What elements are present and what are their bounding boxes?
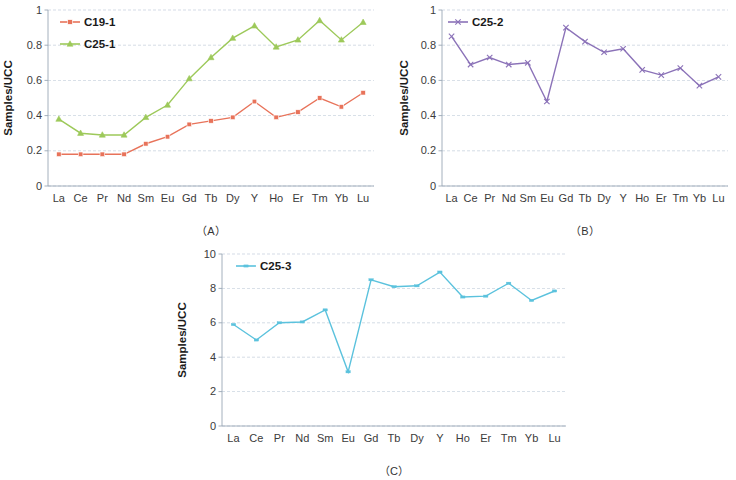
y-axis-tick-label: 6 bbox=[210, 316, 216, 328]
data-point-marker bbox=[438, 271, 442, 273]
panel-caption: （B） bbox=[570, 225, 599, 237]
x-axis-category-label: Pr bbox=[97, 192, 108, 204]
x-axis-category-label: Tm bbox=[312, 192, 328, 204]
data-point-marker bbox=[346, 371, 350, 373]
data-point-marker bbox=[144, 141, 149, 146]
x-axis-category-label: La bbox=[227, 432, 240, 444]
data-point-marker bbox=[56, 116, 62, 121]
y-axis-tick-label: 0.6 bbox=[421, 74, 436, 86]
y-axis-tick-label: 0 bbox=[430, 180, 436, 192]
series-line-C25-2 bbox=[452, 28, 719, 102]
legend-label-C25-2: C25-2 bbox=[472, 16, 503, 28]
rare-earth-element-figure: 00.20.40.60.81LaCePrNdSmEuGdTbDyYHoErTmY… bbox=[0, 0, 736, 480]
x-axis-category-label: Gd bbox=[559, 192, 574, 204]
x-axis-category-label: Y bbox=[251, 192, 259, 204]
y-axis-tick-label: 1 bbox=[430, 4, 436, 16]
data-point-marker bbox=[323, 309, 327, 311]
x-axis-category-label: Pr bbox=[274, 432, 285, 444]
data-point-marker bbox=[339, 105, 344, 110]
panel-c-plot-area: 0246810LaCePrNdSmEuGdTbDyYHoErTmYbLuSamp… bbox=[168, 240, 580, 480]
x-axis-category-label: Tm bbox=[501, 432, 517, 444]
data-point-marker bbox=[277, 322, 281, 324]
x-axis-category-label: Sm bbox=[138, 192, 155, 204]
x-axis-category-label: Tb bbox=[388, 432, 401, 444]
y-axis-tick-label: 0.8 bbox=[27, 39, 42, 51]
y-axis-tick-label: 0.4 bbox=[27, 109, 42, 121]
panel-c-svg: 0246810LaCePrNdSmEuGdTbDyYHoErTmYbLuSamp… bbox=[168, 240, 580, 480]
x-axis-category-label: Tm bbox=[672, 192, 688, 204]
x-axis-category-label: Dy bbox=[410, 432, 424, 444]
x-axis-category-label: Nd bbox=[295, 432, 309, 444]
x-axis-category-label: Ce bbox=[74, 192, 88, 204]
legend-marker-cross bbox=[448, 19, 468, 24]
x-axis-category-label: Eu bbox=[341, 432, 354, 444]
x-axis-category-label: Gd bbox=[364, 432, 379, 444]
x-axis-category-label: Er bbox=[656, 192, 667, 204]
data-point-marker bbox=[254, 339, 258, 341]
data-point-marker bbox=[317, 17, 323, 22]
data-point-marker bbox=[392, 286, 396, 288]
x-axis-category-label: Dy bbox=[597, 192, 611, 204]
x-axis-category-label: Y bbox=[436, 432, 444, 444]
data-point-marker bbox=[369, 279, 373, 281]
x-axis-category-label: Sm bbox=[520, 192, 537, 204]
data-point-marker bbox=[300, 321, 304, 323]
y-axis-tick-label: 0.2 bbox=[27, 144, 42, 156]
panel-caption: （A） bbox=[196, 225, 225, 237]
x-axis-category-label: Pr bbox=[484, 192, 495, 204]
data-point-marker bbox=[360, 19, 366, 24]
data-point-marker bbox=[461, 296, 465, 298]
y-axis-title: Samples/UCC bbox=[2, 60, 14, 135]
data-point-marker bbox=[251, 23, 257, 28]
x-axis-category-label: Dy bbox=[226, 192, 240, 204]
data-point-marker bbox=[57, 152, 62, 157]
data-point-marker bbox=[230, 115, 235, 120]
legend-label-C25-1: C25-1 bbox=[84, 38, 116, 50]
chart-panel-c: 0246810LaCePrNdSmEuGdTbDyYHoErTmYbLuSamp… bbox=[168, 240, 580, 480]
data-point-marker bbox=[122, 152, 127, 157]
x-axis-category-label: Er bbox=[292, 192, 303, 204]
legend-label-C25-3: C25-3 bbox=[260, 260, 291, 272]
data-point-marker bbox=[68, 20, 73, 25]
data-point-marker bbox=[317, 96, 322, 101]
x-axis-category-label: La bbox=[53, 192, 66, 204]
x-axis-category-label: Yb bbox=[525, 432, 538, 444]
data-point-marker bbox=[415, 285, 419, 287]
y-axis-tick-label: 0.2 bbox=[421, 144, 436, 156]
panel-a-plot-area: 00.20.40.60.81LaCePrNdSmEuGdTbDyYHoErTmY… bbox=[0, 0, 392, 240]
data-point-marker bbox=[361, 90, 366, 95]
data-point-marker bbox=[209, 119, 214, 124]
x-axis-category-label: Ce bbox=[464, 192, 478, 204]
x-axis-category-label: Ho bbox=[269, 192, 283, 204]
y-axis-tick-label: 1 bbox=[36, 4, 42, 16]
series-line-C19-1 bbox=[59, 93, 363, 155]
x-axis-category-label: Sm bbox=[317, 432, 334, 444]
x-axis-category-label: Gd bbox=[182, 192, 197, 204]
y-axis-tick-label: 0.4 bbox=[421, 109, 436, 121]
panel-a-svg: 00.20.40.60.81LaCePrNdSmEuGdTbDyYHoErTmY… bbox=[0, 0, 392, 240]
x-axis-category-label: Yb bbox=[693, 192, 706, 204]
x-axis-category-label: Nd bbox=[117, 192, 131, 204]
data-point-marker bbox=[484, 295, 488, 297]
y-axis-tick-label: 8 bbox=[210, 282, 216, 294]
chart-panel-b: 00.20.40.60.81LaCePrNdSmEuGdTbDyYHoErTmY… bbox=[396, 0, 736, 240]
x-axis-category-label: Eu bbox=[540, 192, 553, 204]
legend-label-C19-1: C19-1 bbox=[84, 16, 116, 28]
y-axis-tick-label: 0 bbox=[36, 180, 42, 192]
data-point-marker bbox=[244, 265, 248, 267]
data-point-marker bbox=[529, 299, 533, 301]
y-axis-tick-label: 10 bbox=[204, 248, 216, 260]
x-axis-category-label: La bbox=[445, 192, 458, 204]
x-axis-category-label: Ho bbox=[456, 432, 470, 444]
data-point-marker bbox=[252, 99, 257, 104]
x-axis-category-label: Yb bbox=[335, 192, 348, 204]
y-axis-tick-label: 4 bbox=[210, 351, 216, 363]
x-axis-category-label: Nd bbox=[502, 192, 516, 204]
x-axis-category-label: Y bbox=[619, 192, 627, 204]
y-axis-tick-label: 0 bbox=[210, 420, 216, 432]
x-axis-category-label: Tb bbox=[579, 192, 592, 204]
data-point-marker bbox=[100, 152, 105, 157]
data-point-marker bbox=[552, 290, 556, 292]
x-axis-category-label: Ce bbox=[249, 432, 263, 444]
panel-b-svg: 00.20.40.60.81LaCePrNdSmEuGdTbDyYHoErTmY… bbox=[396, 0, 736, 240]
